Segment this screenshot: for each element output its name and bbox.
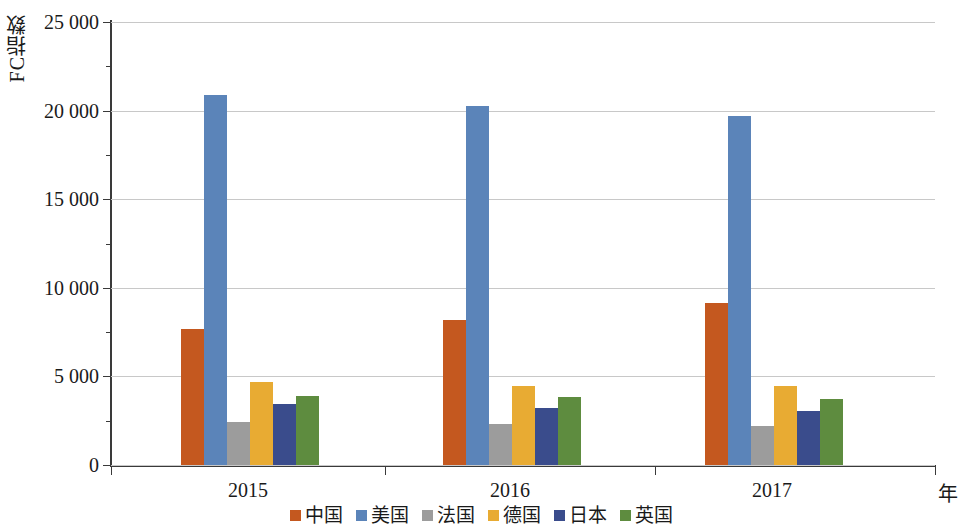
legend-item[interactable]: 法国 <box>422 505 475 526</box>
x-axis-tick-mark <box>935 466 936 475</box>
y-axis-tick-label: 25 000 <box>3 12 99 32</box>
y-axis-tick-label: 10 000 <box>3 278 99 298</box>
legend-label: 日本 <box>569 505 607 526</box>
y-axis-tick-label-wrap: 10 000 <box>0 278 99 298</box>
bar <box>512 386 535 465</box>
bar <box>181 329 204 465</box>
bar <box>535 408 558 465</box>
gridline <box>111 465 935 466</box>
bar <box>466 106 489 465</box>
bar <box>250 382 273 465</box>
x-axis-tick-mark <box>385 466 386 475</box>
legend-swatch-icon <box>554 510 565 521</box>
y-axis-tick-label: 5 000 <box>3 366 99 386</box>
bar-group <box>443 22 581 465</box>
bar <box>273 404 296 465</box>
legend-label: 中国 <box>305 505 343 526</box>
y-axis-tick-label-wrap: 20 000 <box>0 101 99 121</box>
y-axis-tick-label: 0 <box>3 455 99 475</box>
x-axis-tick-mark <box>111 466 112 475</box>
y-axis-tick-label: 15 000 <box>3 189 99 209</box>
bar <box>728 116 751 465</box>
bar <box>489 424 512 465</box>
x-axis-tick-mark <box>655 466 656 475</box>
y-axis-tick-label: 20 000 <box>3 101 99 121</box>
legend-label: 美国 <box>371 505 409 526</box>
chart-legend: 中国美国法国德国日本英国 <box>0 505 962 526</box>
legend-swatch-icon <box>356 510 367 521</box>
bar <box>558 397 581 465</box>
legend-swatch-icon <box>290 510 301 521</box>
bar <box>705 303 728 465</box>
bar <box>227 422 250 465</box>
bar <box>443 320 466 465</box>
legend-label: 德国 <box>503 505 541 526</box>
y-axis-tick-label-wrap: 5 000 <box>0 366 99 386</box>
legend-swatch-icon <box>422 510 433 521</box>
y-axis-tick-label-wrap: 25 000 <box>0 12 99 32</box>
x-axis-tick-label: 2015 <box>188 478 308 502</box>
legend-item[interactable]: 日本 <box>554 505 607 526</box>
bar-group <box>181 22 319 465</box>
legend-swatch-icon <box>620 510 631 521</box>
legend-item[interactable]: 美国 <box>356 505 409 526</box>
y-axis-tick-label-wrap: 0 <box>0 455 99 475</box>
x-axis-tick-label: 2017 <box>712 478 832 502</box>
plot-area <box>111 22 935 465</box>
bar <box>820 399 843 465</box>
bar <box>751 426 774 465</box>
legend-item[interactable]: 英国 <box>620 505 673 526</box>
legend-item[interactable]: 中国 <box>290 505 343 526</box>
legend-swatch-icon <box>488 510 499 521</box>
legend-item[interactable]: 德国 <box>488 505 541 526</box>
bar <box>797 411 820 465</box>
legend-label: 英国 <box>635 505 673 526</box>
y-axis-tick-label-wrap: 15 000 <box>0 189 99 209</box>
x-axis-tick-label: 2016 <box>450 478 570 502</box>
bar <box>204 95 227 465</box>
legend-label: 法国 <box>437 505 475 526</box>
bar <box>296 396 319 465</box>
bar-group <box>705 22 843 465</box>
bar <box>774 386 797 465</box>
x-axis-unit-label: 年 <box>938 482 958 506</box>
bar-chart: FC指数 25 00020 00015 00010 0005 0000 2015… <box>0 0 962 532</box>
